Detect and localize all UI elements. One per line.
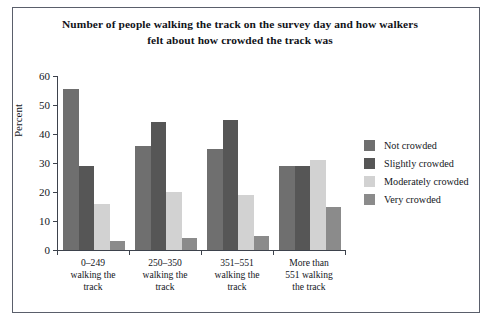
- bar: [326, 207, 342, 251]
- x-axis-category-line: 551 walking: [273, 269, 345, 281]
- x-axis-category-label: 250–350walking thetrack: [129, 257, 201, 292]
- bar: [151, 122, 167, 250]
- y-axis-tick-label: 40: [39, 128, 50, 140]
- bar: [238, 195, 254, 250]
- x-axis-tick-mark: [273, 250, 274, 255]
- legend-swatch-icon: [364, 140, 375, 151]
- legend-item-label: Slightly crowded: [384, 158, 454, 169]
- chart-title: Number of people walking the track on th…: [40, 16, 440, 48]
- legend-item[interactable]: Slightly crowded: [364, 154, 469, 172]
- legend-swatch-icon: [364, 158, 375, 169]
- x-axis-category-line: track: [201, 281, 273, 293]
- x-axis-category-label: 0–249walking thetrack: [57, 257, 129, 292]
- bar: [94, 204, 110, 250]
- chart-figure: Number of people walking the track on th…: [0, 0, 492, 328]
- y-axis-tick-mark: [53, 134, 57, 135]
- legend-item-label: Moderately crowded: [384, 176, 469, 187]
- x-axis-tick-mark: [201, 250, 202, 255]
- legend-item[interactable]: Very crowded: [364, 190, 469, 208]
- bar: [63, 89, 79, 250]
- bar: [207, 149, 223, 251]
- x-axis-category-line: walking the: [57, 269, 129, 281]
- bar: [166, 192, 182, 250]
- y-axis-tick-label: 30: [39, 157, 50, 169]
- bar: [310, 160, 326, 250]
- chart-legend: Not crowdedSlightly crowdedModerately cr…: [364, 136, 469, 208]
- y-axis-tick-label: 60: [39, 70, 50, 82]
- y-axis-tick-mark: [53, 221, 57, 222]
- bar: [254, 236, 270, 251]
- x-axis-category-line: track: [129, 281, 201, 293]
- x-axis-category-label: 351–551walking thetrack: [201, 257, 273, 292]
- chart-title-line-2: felt about how crowded the track was: [40, 32, 440, 48]
- legend-swatch-icon: [364, 176, 375, 187]
- x-axis-category-line: 250–350: [129, 257, 201, 269]
- y-axis-tick-label: 50: [39, 99, 50, 111]
- bar: [295, 166, 311, 250]
- x-axis-category-line: the track: [273, 281, 345, 293]
- x-axis-category-line: 0–249: [57, 257, 129, 269]
- x-axis-tick-mark: [129, 250, 130, 255]
- bar: [223, 120, 239, 251]
- plot-area: 0102030405060: [57, 76, 345, 250]
- legend-item-label: Very crowded: [384, 194, 441, 205]
- x-axis-category-line: walking the: [201, 269, 273, 281]
- x-axis-category-line: walking the: [129, 269, 201, 281]
- legend-swatch-icon: [364, 194, 375, 205]
- bar: [110, 241, 126, 250]
- chart-title-line-1: Number of people walking the track on th…: [40, 16, 440, 32]
- y-axis-tick-mark: [53, 76, 57, 77]
- y-axis-label: Percent: [12, 104, 24, 137]
- x-axis-category-line: 351–551: [201, 257, 273, 269]
- y-axis-tick-label: 10: [39, 215, 50, 227]
- x-axis-tick-mark: [345, 250, 346, 255]
- y-axis-tick-mark: [53, 192, 57, 193]
- bar: [182, 238, 198, 250]
- legend-item[interactable]: Moderately crowded: [364, 172, 469, 190]
- legend-item-label: Not crowded: [384, 140, 437, 151]
- y-axis-tick-mark: [53, 105, 57, 106]
- bar: [135, 146, 151, 250]
- x-axis-category-line: More than: [273, 257, 345, 269]
- x-axis-tick-mark: [57, 250, 58, 255]
- legend-item[interactable]: Not crowded: [364, 136, 469, 154]
- y-axis-tick-mark: [53, 163, 57, 164]
- bar: [279, 166, 295, 250]
- y-axis-tick-label: 0: [45, 244, 51, 256]
- x-axis-category-label: More than551 walkingthe track: [273, 257, 345, 292]
- bar: [79, 166, 95, 250]
- x-axis-category-line: track: [57, 281, 129, 293]
- y-axis-tick-label: 20: [39, 186, 50, 198]
